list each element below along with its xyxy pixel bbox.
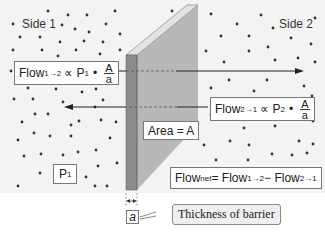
fraction-denominator: a	[106, 74, 112, 84]
pressure-subscript: 2	[281, 105, 285, 114]
proportional-pressure: ∝ P	[64, 66, 84, 80]
thickness-symbol: a	[129, 210, 136, 224]
flow-text: Flow	[215, 102, 240, 116]
equals-flow-text: = Flow	[211, 171, 247, 185]
proportional-pressure: ∝ P	[260, 102, 280, 116]
pressure-subscript: 1	[67, 170, 71, 179]
flow-text: Flow	[175, 171, 200, 185]
flow-subscript: 2→1	[300, 174, 317, 183]
multiply-dot: •	[289, 102, 293, 116]
flow-subscript: 2→1	[240, 105, 257, 114]
fraction-numerator: A	[300, 99, 309, 110]
flow-2-to-1-equation: Flow2→1 ∝ P2 • Aa	[210, 97, 315, 121]
diffusion-diagram: Side 1 Side 2 Flow1→2 ∝ P1 • Aa Flow2→1 …	[0, 0, 325, 233]
flow-net-equation: Flownet = Flow1→2 − Flow2→1	[170, 167, 322, 189]
flow-subscript: 1→2	[247, 174, 264, 183]
pressure-p1-box: P1	[53, 164, 77, 184]
barrier	[126, 5, 198, 190]
area-label-box: Area = A	[143, 121, 199, 140]
side-2-label: Side 2	[279, 17, 313, 31]
pressure-subscript: 1	[85, 69, 89, 78]
flow-subscript: 1→2	[44, 69, 61, 78]
side-1-label: Side 1	[22, 17, 56, 31]
thickness-callout: Thickness of barrier	[172, 204, 281, 225]
minus-flow-text: − Flow	[264, 171, 300, 185]
thickness-symbol-box: a	[126, 210, 139, 224]
multiply-dot: •	[93, 66, 97, 80]
thickness-callout-text: Thickness of barrier	[178, 207, 275, 221]
fraction-denominator: a	[302, 110, 308, 120]
fraction-numerator: A	[104, 63, 113, 74]
flow-1-to-2-equation: Flow1→2 ∝ P1 • Aa	[14, 61, 119, 85]
area-over-thickness-fraction: Aa	[104, 63, 113, 84]
area-over-thickness-fraction: Aa	[300, 99, 309, 120]
pressure-symbol: P	[59, 167, 67, 181]
flow-text: Flow	[19, 66, 44, 80]
area-label: Area = A	[148, 124, 194, 138]
flow-net-subscript: net	[200, 174, 211, 183]
